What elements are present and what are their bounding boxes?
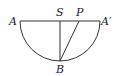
label-b: B — [55, 63, 64, 76]
label-a-prime: A′ — [100, 15, 112, 28]
label-s: S — [56, 6, 64, 19]
diagram-canvas: A S P A′ B — [0, 0, 115, 76]
segment-pb — [60, 21, 79, 61]
label-a: A — [8, 15, 17, 28]
label-p: P — [75, 6, 84, 19]
